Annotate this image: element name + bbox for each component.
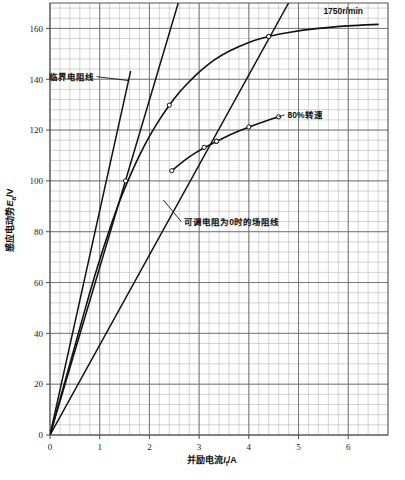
data-point-marker <box>167 103 171 107</box>
y-tick-label: 0 <box>39 430 44 440</box>
y-tick-label: 20 <box>34 379 44 389</box>
x-tick-label: 0 <box>48 442 53 452</box>
x-axis-title: 并励电流If/A <box>187 454 237 467</box>
data-point-marker <box>267 34 271 38</box>
x-axis-title-unit: /A <box>228 455 238 465</box>
magnetization-curve-chart: 0123456020406080100120140160 临界电阻线80%转速可… <box>0 0 405 480</box>
y-tick-label: 160 <box>30 24 44 34</box>
y-tick-label: 100 <box>30 176 44 186</box>
y-tick-label: 60 <box>34 278 44 288</box>
svg-text:感应电动势Ea/V: 感应电动势Ea/V <box>4 188 17 251</box>
zero-rheostat-field-line-label: 可调电阻为0时的场阻线 <box>184 217 279 227</box>
y-tick-label: 140 <box>30 75 44 85</box>
x-tick-label: 4 <box>247 442 252 452</box>
x-tick-label: 6 <box>346 442 351 452</box>
svg-text:并励电流If/A: 并励电流If/A <box>187 454 237 467</box>
data-point-marker <box>247 125 251 129</box>
y-tick-label: 80 <box>34 227 44 237</box>
data-point-marker <box>123 179 127 183</box>
y-axis-title: 感应电动势Ea/V <box>4 188 17 251</box>
x-axis-title-main: 并励电流 <box>187 454 223 465</box>
x-tick-label: 1 <box>97 442 102 452</box>
x-tick-label: 3 <box>197 442 202 452</box>
critical-resistance-label: 临界电阻线 <box>49 72 94 82</box>
y-tick-label: 120 <box>30 125 44 135</box>
y-axis-title-main: 感应电动势 <box>4 207 15 252</box>
rated-speed-label: 1750r/min <box>323 6 363 16</box>
y-tick-label: 40 <box>34 329 44 339</box>
chart-figure: 0123456020406080100120140160 临界电阻线80%转速可… <box>0 0 405 480</box>
data-point-marker <box>214 139 218 143</box>
eighty-percent-speed-label: 80%转速 <box>288 110 323 120</box>
y-axis-title-unit: /V <box>5 188 15 197</box>
data-point-marker <box>202 145 206 149</box>
x-tick-label: 2 <box>147 442 152 452</box>
x-tick-label: 5 <box>296 442 301 452</box>
data-point-marker <box>170 169 174 173</box>
